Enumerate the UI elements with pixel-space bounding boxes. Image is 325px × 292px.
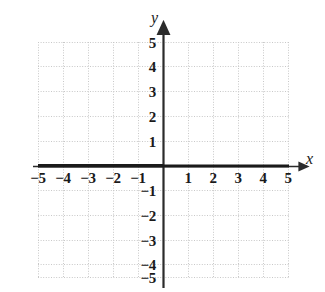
x-tick-label-neg4: −4 xyxy=(55,171,70,186)
x-tick-label-pos1: 1 xyxy=(184,171,191,186)
y-tick-label-pos2: 2 xyxy=(138,110,156,125)
y-tick-label-pos5: 5 xyxy=(138,36,156,51)
x-tick-label-neg3: −3 xyxy=(80,171,95,186)
x-tick-label-neg2: −2 xyxy=(105,171,120,186)
x-tick-label-pos5: 5 xyxy=(284,171,291,186)
y-tick-label-pos1: 1 xyxy=(138,135,156,150)
y-tick-label-pos4: 4 xyxy=(138,60,156,75)
y-tick-label-neg5: −5 xyxy=(130,271,156,286)
x-axis-label: x xyxy=(306,151,313,167)
y-tick-label-neg1: −1 xyxy=(130,184,156,199)
x-tick-label-pos2: 2 xyxy=(209,171,216,186)
x-tick-label-pos3: 3 xyxy=(234,171,241,186)
x-tick-label-pos4: 4 xyxy=(259,171,266,186)
y-tick-label-neg2: −2 xyxy=(130,209,156,224)
y-tick-label-neg3: −3 xyxy=(130,234,156,249)
x-tick-label-neg5: −5 xyxy=(30,171,45,186)
coordinate-plane-figure: y x −5 −4 −3 −2 −1 1 2 3 4 5 5 4 3 2 1 −… xyxy=(0,0,325,292)
y-tick-label-pos3: 3 xyxy=(138,85,156,100)
graph-canvas xyxy=(0,0,325,292)
y-axis-label: y xyxy=(151,10,158,26)
